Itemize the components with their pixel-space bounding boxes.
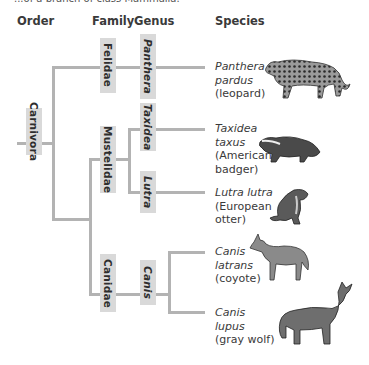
family-label-text: Felidae xyxy=(102,43,114,87)
order-vertical-branch xyxy=(52,66,55,221)
genus-label-panthera: Panthera xyxy=(140,34,156,99)
species-scientific-name: Lutra lutra xyxy=(215,186,273,200)
mustelidae-canidae-branch xyxy=(52,218,92,221)
figure-caption: ...of a branch of class Mammalia. xyxy=(14,0,180,4)
coyote-illustration xyxy=(248,232,314,284)
felidae-branch xyxy=(52,66,205,69)
genus-label-text: Panthera xyxy=(142,39,154,94)
species-scientific-name: Panthera xyxy=(215,60,265,74)
species-common-name: (leopard) xyxy=(215,87,265,101)
header-species: Species xyxy=(215,14,265,28)
species-scientific-name: pardus xyxy=(215,74,265,88)
family-label-canidae: Canidae xyxy=(100,254,116,312)
family-label-mustelidae: Mustelidae xyxy=(100,126,116,193)
otter-illustration xyxy=(268,186,312,226)
header-genus: Genus xyxy=(134,14,174,28)
family-vertical-branch xyxy=(89,158,92,296)
genus-label-text: Lutra xyxy=(142,176,154,208)
canis-vertical-branch xyxy=(168,251,171,313)
genus-label-taxidea: Taxidea xyxy=(140,103,156,151)
family-label-felidae: Felidae xyxy=(100,38,116,93)
order-label-carnivora: Carnivora xyxy=(26,108,42,155)
species-common-name: otter) xyxy=(215,213,273,227)
genus-label-lutra: Lutra xyxy=(140,171,156,213)
header-family: Family xyxy=(92,14,134,28)
family-label-text: Mustelidae xyxy=(102,126,114,193)
species-common-name: (European xyxy=(215,200,273,214)
species-scientific-name: Canis xyxy=(215,306,275,320)
species-leopard: Panthera pardus (leopard) xyxy=(215,60,265,101)
species-wolf: Canis lupus (gray wolf) xyxy=(215,306,275,347)
wolf-branch xyxy=(168,311,205,314)
species-otter: Lutra lutra (European otter) xyxy=(215,186,273,227)
genus-label-text: Taxidea xyxy=(142,104,154,151)
species-common-name: (gray wolf) xyxy=(215,333,275,347)
wolf-illustration xyxy=(272,280,354,348)
species-scientific-name: lupus xyxy=(215,320,275,334)
order-label-text: Carnivora xyxy=(28,102,40,161)
badger-illustration xyxy=(258,132,324,166)
family-label-text: Canidae xyxy=(102,259,114,308)
header-order: Order xyxy=(17,14,54,28)
mustelidae-genus-vertical xyxy=(128,128,131,194)
genus-label-text: Canis xyxy=(142,266,154,299)
genus-label-canis: Canis xyxy=(140,260,156,305)
leopard-illustration xyxy=(262,54,354,102)
coyote-branch xyxy=(168,251,205,254)
